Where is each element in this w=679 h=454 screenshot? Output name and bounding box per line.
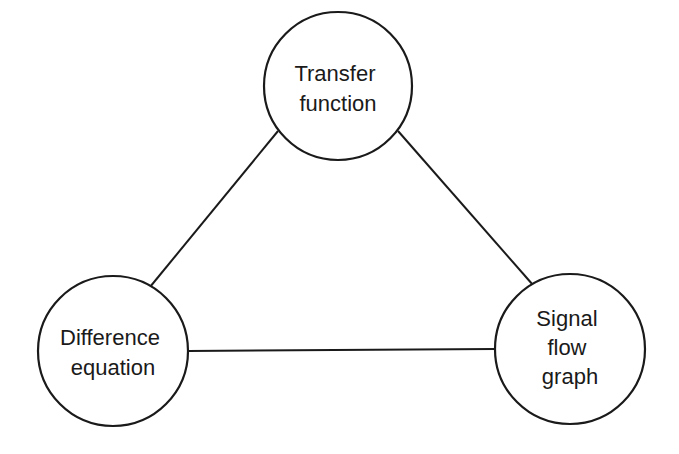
label-line: equation — [71, 355, 155, 380]
node-signal-flow-graph: Signal flow graph — [495, 274, 645, 424]
label-line: graph — [542, 364, 598, 389]
relationship-diagram: Transfer function Difference equation Si… — [0, 0, 679, 454]
node-difference-equation: Difference equation — [38, 276, 188, 426]
node-transfer-function: Transfer function — [264, 12, 412, 160]
node-circle — [38, 276, 188, 426]
edge-transfer-function-to-signal-flow-graph — [398, 131, 533, 285]
label-line: Signal — [536, 306, 597, 331]
label-line: Transfer — [294, 61, 375, 86]
node-circle — [264, 12, 412, 160]
label-line: Difference — [60, 325, 160, 350]
label-line: flow — [547, 335, 586, 360]
edge-difference-equation-to-signal-flow-graph — [188, 349, 495, 351]
edges — [150, 131, 533, 351]
edge-transfer-function-to-difference-equation — [150, 131, 278, 287]
label-line: function — [299, 91, 376, 116]
